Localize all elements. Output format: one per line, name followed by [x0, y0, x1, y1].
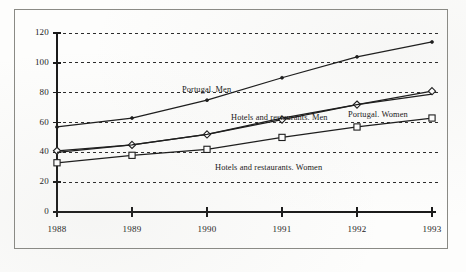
y-axis-tick-label: 100	[17, 57, 49, 67]
series-line	[57, 118, 432, 163]
data-point-marker	[429, 115, 435, 121]
data-point-marker	[279, 134, 285, 140]
data-point-marker	[206, 99, 209, 102]
y-axis-tick-label: 20	[17, 176, 49, 186]
series-inline-label: Portugal. Women	[348, 110, 408, 119]
y-axis-tick-label: 0	[17, 206, 49, 216]
data-point-marker	[131, 117, 134, 120]
data-point-marker	[204, 146, 210, 152]
data-point-marker	[431, 40, 434, 43]
data-point-marker	[56, 125, 59, 128]
y-axis-tick-label: 120	[17, 27, 49, 37]
data-point-marker	[129, 152, 135, 158]
data-point-marker	[354, 124, 360, 130]
x-axis-tick-label: 1989	[112, 224, 152, 234]
x-axis-tick-label: 1990	[187, 224, 227, 234]
x-axis-tick-label: 1988	[37, 224, 77, 234]
data-point-marker	[281, 76, 284, 79]
data-point-marker	[53, 147, 60, 154]
data-point-marker	[54, 160, 60, 166]
chart-page: 020406080100120198819891990199119921993 …	[0, 0, 466, 272]
y-axis-tick-label: 60	[17, 117, 49, 127]
y-axis-tick-label: 80	[17, 87, 49, 97]
data-point-marker	[356, 55, 359, 58]
series-inline-label: Portugal. Men	[182, 85, 231, 94]
x-axis-tick-label: 1993	[412, 224, 452, 234]
y-axis-tick-label: 40	[17, 146, 49, 156]
x-axis-tick-label: 1991	[262, 224, 302, 234]
series-inline-label: Hotels and restaurants. Men	[231, 113, 328, 122]
data-point-marker	[428, 88, 435, 95]
x-axis-tick-label: 1992	[337, 224, 377, 234]
series-inline-label: Hotels and restaurants. Women	[215, 163, 322, 172]
